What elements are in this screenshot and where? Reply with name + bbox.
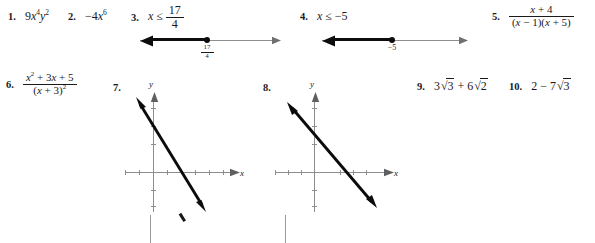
- exponent: 2: [63, 83, 66, 90]
- variable-x: x: [51, 71, 56, 83]
- plus-sign: +: [59, 71, 65, 83]
- item-answer-4: x ≤ −5: [317, 9, 348, 23]
- item-number-3: 3.: [131, 12, 139, 23]
- variable-x: x: [530, 3, 535, 15]
- item-number-9: 9.: [417, 81, 425, 92]
- value-negative-5: −5: [335, 9, 348, 23]
- y-axis-cutoff-fragment: [150, 215, 151, 243]
- answer-item-10: 10. 2 − 7√3: [509, 76, 571, 94]
- variable-x: x: [37, 84, 42, 96]
- minus-sign: −: [540, 79, 547, 93]
- number-line-label-17-over-4: 17 4: [195, 44, 219, 60]
- item-answer-5: x + 4 (x − 1)(x + 5): [509, 9, 574, 21]
- coordinate-graph-8: x y: [276, 82, 406, 212]
- item-number-6: 6.: [6, 79, 14, 90]
- plus-sign: +: [45, 84, 51, 96]
- exponent: 6: [103, 8, 107, 17]
- plus-sign: +: [553, 16, 559, 28]
- item-number-1: 1.: [8, 11, 16, 22]
- numerator: 17: [166, 4, 184, 18]
- plus-sign: +: [37, 71, 43, 83]
- radicand: 3: [446, 78, 454, 94]
- item-answer-1: 9x4y2: [25, 9, 49, 23]
- exponent: 2: [45, 8, 49, 17]
- number-line-label-negative-5: −5: [380, 43, 404, 52]
- answer-item-2: 2. −4x6: [68, 6, 107, 24]
- plotted-line-8: [276, 82, 406, 212]
- minus-sign: −: [523, 16, 529, 28]
- variable-x: x: [317, 9, 322, 23]
- minus-sign: −: [85, 9, 92, 23]
- leq-sign: ≤: [156, 9, 163, 23]
- constant: 4: [547, 3, 553, 15]
- item-answer-9: 3√3 + 6√2: [434, 79, 488, 93]
- radical-group: √3: [440, 78, 455, 94]
- answer-item-4: 4. x ≤ −5: [300, 6, 348, 24]
- solution-ray: [151, 38, 207, 41]
- number-line-item-3: 17 4: [140, 32, 285, 50]
- item-number-10: 10.: [509, 81, 522, 92]
- fraction-17-over-4: 17 4: [166, 4, 184, 31]
- exponent: 2: [31, 70, 34, 77]
- radical-group: √3: [556, 78, 571, 94]
- y-axis-cutoff-fragment: [285, 215, 286, 243]
- label-denominator: 4: [201, 53, 214, 61]
- constant: 5: [68, 71, 74, 83]
- answer-item-9: 9. 3√3 + 6√2: [417, 76, 488, 94]
- answer-item-7: 7.: [113, 77, 121, 95]
- radicand: 2: [480, 78, 488, 94]
- denominator: (x − 1)(x + 5): [509, 17, 574, 29]
- item-number-8: 8.: [263, 82, 271, 93]
- denominator: 4: [166, 18, 184, 31]
- answer-item-6: 6. x2 + 3x + 5 (x + 3)2: [6, 72, 77, 97]
- solution-ray: [333, 38, 392, 41]
- item-answer-2: −4x6: [85, 9, 107, 23]
- variable-x: x: [148, 9, 153, 23]
- rational-expression-fraction: x2 + 3x + 5 (x + 3)2: [23, 72, 77, 97]
- item-answer-3: x ≤ 17 4: [148, 9, 184, 23]
- item-number-4: 4.: [300, 11, 308, 22]
- plus-sign: +: [457, 79, 464, 93]
- arrowhead-right-icon: [272, 36, 281, 45]
- coordinate-graph-7: x y: [126, 82, 246, 212]
- radical-group: √2: [473, 78, 488, 94]
- item-answer-10: 2 − 7√3: [531, 79, 570, 93]
- answer-item-3: 3. x ≤ 17 4: [131, 4, 184, 31]
- variable-x: x: [545, 16, 550, 28]
- answer-item-8: 8.: [263, 77, 271, 95]
- answer-key-page: 1. 9x4y2 2. −4x6 3. x ≤ 17 4 4. x ≤ −5: [0, 0, 595, 243]
- leq-sign: ≤: [325, 9, 332, 23]
- rational-expression-fraction: x + 4 (x − 1)(x + 5): [509, 4, 574, 29]
- arrowhead-right-icon: [459, 36, 468, 45]
- radicand: 3: [563, 78, 571, 94]
- denominator: (x + 3)2: [23, 85, 77, 97]
- number-line-item-4: −5: [322, 32, 472, 50]
- plotted-line-7: [126, 82, 246, 212]
- item-answer-6: x2 + 3x + 5 (x + 3)2: [23, 77, 77, 89]
- item-number-5: 5.: [492, 11, 500, 22]
- item-number-2: 2.: [68, 11, 76, 22]
- answer-item-1: 1. 9x4y2: [8, 6, 49, 24]
- line-cutoff-fragment: [179, 213, 186, 222]
- item-number-7: 7.: [113, 82, 121, 93]
- answer-item-5: 5. x + 4 (x − 1)(x + 5): [492, 4, 574, 29]
- constant: 2: [531, 79, 537, 93]
- variable-x: x: [516, 16, 521, 28]
- plus-sign: +: [538, 3, 544, 15]
